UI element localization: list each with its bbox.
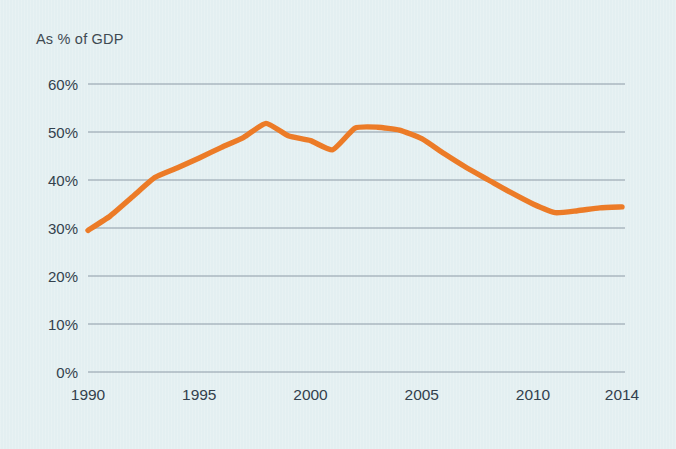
x-tick-label: 1995 <box>182 386 216 404</box>
x-tick-label: 2014 <box>605 386 639 404</box>
chart-figure: As % of GDP 0%10%20%30%40%50%60% 1990199… <box>0 0 676 449</box>
x-tick-label: 2000 <box>293 386 327 404</box>
x-axis-tick-labels: 199019952000200520102014 <box>0 0 676 449</box>
x-tick-label: 2010 <box>516 386 550 404</box>
x-tick-label: 2005 <box>405 386 439 404</box>
x-tick-label: 1990 <box>71 386 105 404</box>
